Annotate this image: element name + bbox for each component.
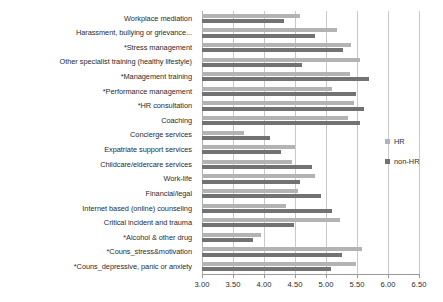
bar-hr xyxy=(202,101,354,105)
category-axis-labels: Workplace mediationHarassment, bullying … xyxy=(0,11,196,274)
bar-hr xyxy=(202,233,261,237)
bar-non-hr xyxy=(202,165,312,169)
category-label: Childcare/eldercare services xyxy=(0,157,196,172)
x-tick xyxy=(326,274,327,278)
bar-hr xyxy=(202,131,244,135)
x-tick xyxy=(419,274,420,278)
category-label: *Couns_depressive, panic or anxiety xyxy=(0,259,196,274)
bar-group xyxy=(202,113,419,128)
category-label: Workplace mediation xyxy=(0,11,196,26)
bar-non-hr xyxy=(202,180,300,184)
bar-hr xyxy=(202,72,350,76)
bar-group xyxy=(202,26,419,41)
x-tick xyxy=(295,274,296,278)
category-label: Harassment, bullying or grievance... xyxy=(0,26,196,41)
bar-non-hr xyxy=(202,107,364,111)
bar-group xyxy=(202,40,419,55)
bar-group xyxy=(202,99,419,114)
x-tick-label: 5.00 xyxy=(319,280,334,289)
bar-non-hr xyxy=(202,48,343,52)
x-tick-label: 3.50 xyxy=(226,280,241,289)
bar-hr xyxy=(202,58,360,62)
bar-non-hr xyxy=(202,77,369,81)
bar-group xyxy=(202,11,419,26)
x-axis-tick-labels: 3.003.504.004.505.005.506.006.50 xyxy=(0,280,443,294)
bar-non-hr xyxy=(202,136,270,140)
bar-non-hr xyxy=(202,19,284,23)
category-label: *Couns_stress&motivation xyxy=(0,245,196,260)
bar-hr xyxy=(202,145,295,149)
bar-hr xyxy=(202,262,356,266)
bar-non-hr xyxy=(202,267,331,271)
bar-non-hr xyxy=(202,121,360,125)
bar-hr xyxy=(202,87,332,91)
category-label: Internet based (online) counseling xyxy=(0,201,196,216)
category-label: Concierge services xyxy=(0,128,196,143)
legend-swatch-icon-non-hr xyxy=(385,159,390,164)
x-tick-label: 4.00 xyxy=(257,280,272,289)
category-label: Expatriate support services xyxy=(0,142,196,157)
bar-group xyxy=(202,230,419,245)
bar-non-hr xyxy=(202,150,281,154)
x-tick xyxy=(264,274,265,278)
bar-group xyxy=(202,69,419,84)
bar-hr xyxy=(202,204,286,208)
bar-group xyxy=(202,245,419,260)
bar-non-hr xyxy=(202,223,294,227)
legend: HR non-HR xyxy=(385,137,443,177)
bar-group xyxy=(202,259,419,274)
x-tick xyxy=(388,274,389,278)
bar-non-hr xyxy=(202,209,332,213)
category-label: *HR consultation xyxy=(0,99,196,114)
bar-group xyxy=(202,201,419,216)
bar-non-hr xyxy=(202,63,302,67)
bar-hr xyxy=(202,116,348,120)
category-label: *Performance management xyxy=(0,84,196,99)
bar-chart: Workplace mediationHarassment, bullying … xyxy=(0,0,443,302)
bar-non-hr xyxy=(202,34,315,38)
bar-group xyxy=(202,55,419,70)
x-tick-label: 4.50 xyxy=(288,280,303,289)
bar-non-hr xyxy=(202,238,253,242)
bar-hr xyxy=(202,247,362,251)
bar-hr xyxy=(202,189,298,193)
bar-hr xyxy=(202,174,315,178)
bar-non-hr xyxy=(202,253,342,257)
category-label: *Stress management xyxy=(0,40,196,55)
x-tick-label: 6.00 xyxy=(381,280,396,289)
category-label: Financial/legal xyxy=(0,186,196,201)
bar-hr xyxy=(202,160,292,164)
category-label: *Alcohol & other drug xyxy=(0,230,196,245)
x-tick xyxy=(357,274,358,278)
x-tick xyxy=(233,274,234,278)
bar-group xyxy=(202,186,419,201)
bar-hr xyxy=(202,14,300,18)
category-label: Work-life xyxy=(0,172,196,187)
x-tick-label: 3.00 xyxy=(195,280,210,289)
category-label: Coaching xyxy=(0,113,196,128)
x-tick xyxy=(202,274,203,278)
bar-hr xyxy=(202,218,340,222)
category-label: Other specialist training (healthy lifes… xyxy=(0,55,196,70)
legend-item-non-hr[interactable]: non-HR xyxy=(385,157,443,166)
bar-non-hr xyxy=(202,92,356,96)
category-label: *Management training xyxy=(0,69,196,84)
x-tick-label: 5.50 xyxy=(350,280,365,289)
bar-non-hr xyxy=(202,194,321,198)
bar-group xyxy=(202,216,419,231)
legend-label-non-hr: non-HR xyxy=(394,157,419,166)
legend-item-hr[interactable]: HR xyxy=(385,137,443,146)
bar-hr xyxy=(202,28,337,32)
bar-hr xyxy=(202,43,351,47)
category-label: Critical incident and trauma xyxy=(0,216,196,231)
legend-swatch-icon-hr xyxy=(385,139,390,144)
x-tick-label: 6.50 xyxy=(412,280,427,289)
bar-group xyxy=(202,84,419,99)
legend-label-hr: HR xyxy=(394,137,405,146)
